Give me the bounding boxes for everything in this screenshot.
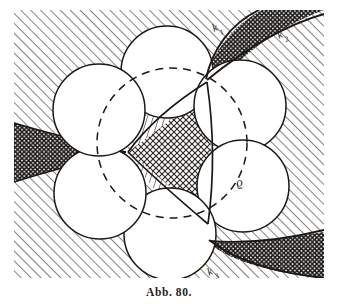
plate <box>14 10 324 280</box>
figure-caption: Abb. 80. <box>0 286 338 298</box>
figure-container: k 1 k 2 k 3 ϱ Abb. 80. <box>0 0 338 308</box>
circle-lower-left <box>54 147 146 239</box>
circle-upper-left <box>53 64 145 156</box>
geometry-figure: k 1 k 2 k 3 ϱ <box>0 0 338 308</box>
